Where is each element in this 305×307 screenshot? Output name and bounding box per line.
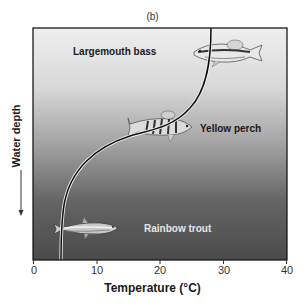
rainbow-trout-label: Rainbow trout [144,223,211,234]
x-axis-label: Temperature (°C) [0,281,305,295]
largemouth-bass-label: Largemouth bass [73,46,156,57]
y-axis-label: Water depth [10,96,22,176]
x-tick-10: 10 [91,264,103,276]
yellow-perch-label: Yellow perch [200,123,261,134]
x-tick-0: 0 [31,264,37,276]
x-tick-20: 20 [154,264,166,276]
x-tick-40: 40 [281,264,293,276]
y-axis: Water depth [9,100,23,230]
x-tick-30: 30 [218,264,230,276]
